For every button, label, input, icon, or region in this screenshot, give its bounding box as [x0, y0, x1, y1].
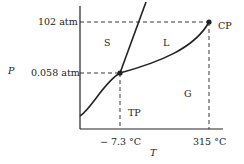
region-liquid: L [163, 38, 169, 48]
x-tick-cp: 315 °C [193, 137, 226, 147]
triple-point-label: TP [128, 108, 141, 118]
x-tick-tp: − 7.3 °C [100, 137, 141, 147]
triple-point-marker [117, 70, 122, 75]
x-axis-label: T [150, 148, 156, 158]
y-tick-102atm: 102 atm [38, 17, 78, 27]
region-gas: G [184, 89, 192, 99]
region-solid: S [104, 38, 111, 48]
critical-point-label: CP [218, 21, 232, 31]
y-axis-label: P [8, 66, 14, 76]
critical-point-marker [206, 19, 211, 24]
y-tick-0058atm: 0.058 atm [31, 68, 80, 78]
sublimation-curve [80, 73, 120, 116]
melting-curve [120, 2, 146, 73]
